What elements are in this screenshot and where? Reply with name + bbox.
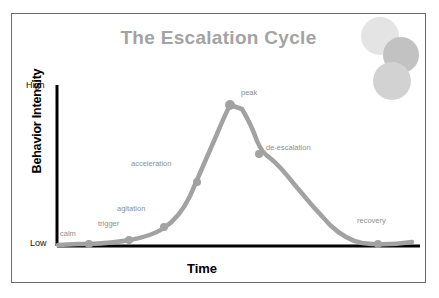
escalation-curve-plot	[12, 14, 426, 283]
data-point-calm	[85, 240, 93, 248]
point-label-acceleration: acceleration	[131, 159, 171, 168]
data-point-agitation	[160, 223, 168, 231]
point-label-recovery: recovery	[357, 216, 386, 225]
point-label-agitation: agitation	[117, 204, 145, 213]
data-point-recovery	[374, 240, 382, 248]
point-label-peak: peak	[241, 88, 257, 97]
y-axis-title: Behavior Intensity	[30, 56, 44, 186]
data-point-acceleration	[193, 178, 201, 186]
y-axis-min-label: Low	[30, 238, 47, 248]
chart-frame: The Escalation Cycle High Low Behavior I…	[11, 13, 426, 283]
data-point-de-escalation	[255, 150, 263, 158]
point-label-de-escalation: de-escalation	[266, 143, 311, 152]
data-point-peak	[225, 100, 235, 110]
point-label-trigger: trigger	[98, 219, 119, 228]
point-label-calm: calm	[60, 229, 76, 238]
data-point-trigger	[125, 236, 133, 244]
slide-canvas: The Escalation Cycle High Low Behavior I…	[0, 0, 439, 298]
x-axis-title: Time	[12, 261, 392, 276]
